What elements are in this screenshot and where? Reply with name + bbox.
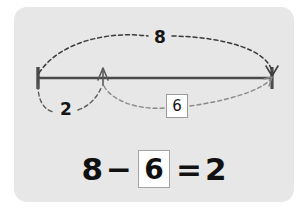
part-label-2: 2 xyxy=(56,99,76,119)
equation-result: 2 xyxy=(205,154,227,185)
minus-operator-icon: − xyxy=(105,154,133,185)
whiteboard-screen: 8 2 6 8 − 6 = 2 xyxy=(0,0,308,209)
part-left-arc-start xyxy=(38,85,54,112)
part-right-arc-start xyxy=(104,86,164,108)
equation-answer-box[interactable]: 6 xyxy=(138,150,170,188)
part-answer-box-6[interactable]: 6 xyxy=(166,94,188,118)
equation-left-operand: 8 xyxy=(81,154,103,185)
whole-label-8: 8 xyxy=(150,27,170,47)
equation-row: 8 − 6 = 2 xyxy=(14,146,294,192)
part-right-arc-end xyxy=(190,80,270,106)
whole-arc-left xyxy=(39,35,148,73)
part-left-arc-end xyxy=(78,86,102,110)
equals-operator-icon: = xyxy=(175,154,203,185)
whole-arc-right xyxy=(172,36,272,72)
